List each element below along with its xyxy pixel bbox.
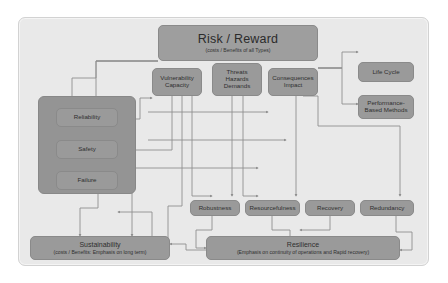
node-sustainability-title: Sustainability bbox=[79, 241, 120, 249]
node-risk-reward-subtitle: (costs / Benefits of all Types) bbox=[205, 48, 270, 54]
node-risk-reward-title: Risk / Reward bbox=[198, 33, 278, 47]
node-reliability-label: Reliability bbox=[74, 114, 100, 121]
node-consequences-line2: Impact bbox=[284, 82, 303, 89]
node-vulnerability-line2: Capacity bbox=[165, 82, 189, 89]
node-failure[interactable]: Failure bbox=[56, 171, 118, 190]
diagram-canvas: Risk / Reward (costs / Benefits of all T… bbox=[0, 0, 448, 283]
node-vulnerability-capacity[interactable]: Vulnerability Capacity bbox=[152, 68, 202, 96]
node-recovery[interactable]: Recovery bbox=[305, 200, 355, 216]
node-robustness-label: Robustness bbox=[199, 205, 232, 212]
node-resilience[interactable]: Resilience (Emphasis on continuity of op… bbox=[206, 236, 400, 260]
node-robustness[interactable]: Robustness bbox=[190, 200, 240, 216]
node-sustainability[interactable]: Sustainability (costs / Benefits: Emphas… bbox=[30, 236, 170, 260]
node-performance-line2: Based Methods bbox=[365, 107, 408, 114]
node-resilience-subtitle: (Emphasis on continuity of operations an… bbox=[237, 250, 369, 256]
node-performance-based-methods[interactable]: Performance- Based Methods bbox=[358, 95, 414, 119]
node-resilience-title: Resilience bbox=[287, 241, 319, 249]
node-threats-hazards-demands[interactable]: Threats Hazards Demands bbox=[212, 63, 262, 96]
node-redundancy[interactable]: Redundancy bbox=[360, 200, 414, 216]
node-resourcefulness[interactable]: Resourcefulness bbox=[245, 200, 300, 216]
node-sustainability-subtitle: (costs / Benefits: Emphasis on long term… bbox=[54, 250, 147, 256]
node-reliability[interactable]: Reliability bbox=[56, 108, 118, 127]
node-life-cycle[interactable]: Life Cycle bbox=[358, 62, 414, 82]
node-resourcefulness-label: Resourcefulness bbox=[249, 205, 295, 212]
node-safety-label: Safety bbox=[78, 146, 96, 153]
node-threats-line3: Demands bbox=[224, 83, 250, 90]
node-recovery-label: Recovery bbox=[317, 205, 343, 212]
node-life-cycle-label: Life Cycle bbox=[372, 69, 399, 76]
node-consequences-impact[interactable]: Consequences Impact bbox=[268, 68, 318, 96]
node-redundancy-label: Redundancy bbox=[370, 205, 405, 212]
node-safety[interactable]: Safety bbox=[56, 140, 118, 159]
node-failure-label: Failure bbox=[78, 177, 97, 184]
node-risk-reward[interactable]: Risk / Reward (costs / Benefits of all T… bbox=[158, 25, 318, 61]
